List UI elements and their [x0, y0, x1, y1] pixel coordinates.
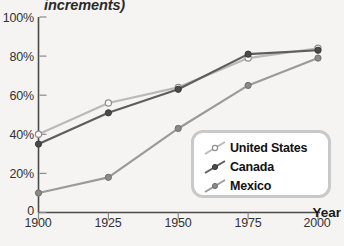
data-point [35, 190, 41, 196]
y-tick-label-60: 60% [0, 89, 34, 103]
chart-page: increments) 100% 80% 60% 40% 20% 0 1900 … [0, 0, 344, 246]
legend-marker-mexico-icon [204, 178, 226, 194]
legend-marker-united-states-icon [204, 140, 226, 156]
line-chart-plot [0, 0, 344, 246]
y-tick-label-100: 100% [0, 11, 34, 25]
chart-legend: United States Canada Mexico [191, 130, 331, 198]
x-tick-label-1925: 1925 [83, 216, 133, 230]
x-tick-label-1975: 1975 [223, 216, 273, 230]
x-tick-label-1900: 1900 [13, 216, 63, 230]
y-tick-label-20: 20% [0, 167, 34, 181]
data-point [175, 125, 181, 131]
data-point [245, 82, 251, 88]
data-point [175, 86, 181, 92]
legend-item-mexico[interactable]: Mexico [204, 177, 271, 195]
legend-item-canada[interactable]: Canada [204, 158, 274, 176]
y-tick-label-40: 40% [0, 128, 34, 142]
data-point [105, 174, 111, 180]
legend-item-united-states[interactable]: United States [204, 139, 307, 157]
y-tick-label-80: 80% [0, 50, 34, 64]
legend-label-canada: Canada [230, 160, 274, 174]
data-point [105, 110, 111, 116]
legend-label-mexico: Mexico [230, 179, 271, 193]
legend-label-united-states: United States [230, 141, 307, 155]
data-point [35, 141, 41, 147]
y-axis-ticks [40, 17, 47, 213]
x-axis-title: Year [312, 205, 341, 220]
data-point [315, 55, 321, 61]
data-point [105, 100, 111, 106]
data-point [315, 47, 321, 53]
data-point [35, 131, 41, 137]
data-point [245, 51, 251, 57]
legend-marker-canada-icon [204, 159, 226, 175]
x-tick-label-1950: 1950 [153, 216, 203, 230]
